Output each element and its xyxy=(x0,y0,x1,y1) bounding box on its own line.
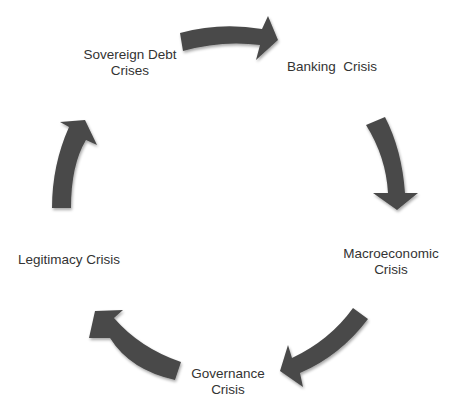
node-sovereign-debt-crises: Sovereign Debt Crises xyxy=(75,47,185,79)
node-label-line: Governance xyxy=(183,366,273,382)
arrow-banking-to-macro-icon xyxy=(366,117,418,210)
node-governance-crisis: Governance Crisis xyxy=(183,366,273,398)
arrow-legitimacy-to-sovereign-icon xyxy=(52,120,97,208)
node-label-line: Macroeconomic xyxy=(335,246,447,262)
cycle-arrows xyxy=(0,0,457,418)
node-label-line: Sovereign Debt xyxy=(75,47,185,63)
node-label-line: Crisis xyxy=(183,382,273,398)
node-legitimacy-crisis: Legitimacy Crisis xyxy=(14,252,124,268)
node-label-line: Banking Crisis xyxy=(282,59,382,75)
node-label-line: Crisis xyxy=(335,262,447,278)
node-label-line: Crises xyxy=(75,63,185,79)
arrow-macro-to-governance-icon xyxy=(280,308,368,387)
arrow-sovereign-to-banking-icon xyxy=(180,16,278,60)
node-banking-crisis: Banking Crisis xyxy=(282,59,382,75)
node-macroeconomic-crisis: Macroeconomic Crisis xyxy=(335,246,447,278)
crisis-cycle-diagram: Sovereign Debt Crises Banking Crisis Mac… xyxy=(0,0,457,418)
node-label-line: Legitimacy Crisis xyxy=(14,252,124,268)
arrow-governance-to-legitimacy-icon xyxy=(89,310,181,380)
